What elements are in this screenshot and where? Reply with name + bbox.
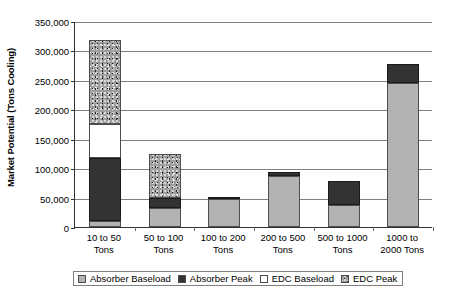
bar-stack[interactable] <box>89 21 121 227</box>
bar-segment[interactable] <box>268 176 300 227</box>
x-axis-tick-label: 1000 to2000 Tons <box>372 232 432 255</box>
gridline <box>75 199 432 200</box>
stacked-bar-chart: Market Potential (Tons Cooling) 350,0003… <box>0 0 452 300</box>
y-axis-tick-mark <box>71 110 75 111</box>
y-axis-tick-label: 150,000 <box>35 134 69 145</box>
x-axis-tick-label: 50 to 100Tons <box>134 232 194 255</box>
legend-label: Absorber Peak <box>190 274 253 284</box>
y-axis-tick-label: 350,000 <box>35 17 69 28</box>
bar-segment[interactable] <box>149 208 181 227</box>
y-axis-tick-label: 200,000 <box>35 105 69 116</box>
bar-segment[interactable] <box>208 199 240 227</box>
gridline <box>75 110 432 111</box>
y-axis-tick-mark <box>71 81 75 82</box>
bar-segment[interactable] <box>89 158 121 221</box>
x-axis-tick-label: 100 to 200Tons <box>193 232 253 255</box>
x-axis-tick-mark <box>194 227 195 231</box>
legend-item[interactable]: Absorber Peak <box>178 274 253 284</box>
bar-stack[interactable] <box>149 21 181 227</box>
y-axis-tick-label: 100,000 <box>35 164 69 175</box>
y-axis-tick-label: 50,000 <box>40 193 69 204</box>
legend-item[interactable]: Absorber Baseload <box>78 274 171 284</box>
bar-segment[interactable] <box>89 124 121 158</box>
gridline <box>75 140 432 141</box>
bar-stack[interactable] <box>328 21 360 227</box>
legend-label: EDC Peak <box>353 274 397 284</box>
bar-segment[interactable] <box>328 205 360 227</box>
bar-segment[interactable] <box>208 197 240 199</box>
bar-segment[interactable] <box>387 83 419 227</box>
y-axis-tick-mark <box>71 140 75 141</box>
x-axis-tick-mark <box>433 227 434 231</box>
bar-segment[interactable] <box>149 198 181 207</box>
x-axis-tick-label: 10 to 50Tons <box>74 232 134 255</box>
bar-segment[interactable] <box>387 64 419 83</box>
legend-swatch-icon <box>78 275 86 283</box>
legend-item[interactable]: EDC Baseload <box>260 274 334 284</box>
x-axis-tick-labels: 10 to 50Tons50 to 100Tons100 to 200Tons2… <box>74 232 432 260</box>
x-axis-tick-mark <box>373 227 374 231</box>
x-axis-tick-mark <box>135 227 136 231</box>
legend-label: EDC Baseload <box>272 274 334 284</box>
y-axis-tick-mark <box>71 22 75 23</box>
gridline <box>75 169 432 170</box>
gridline <box>75 22 432 23</box>
x-axis-tick-label: 200 to 500Tons <box>253 232 313 255</box>
bar-segment[interactable] <box>89 40 121 124</box>
bar-segment[interactable] <box>149 154 181 198</box>
y-axis-title-text: Market Potential (Tons Cooling) <box>6 48 17 187</box>
bar-segment[interactable] <box>268 172 300 176</box>
bar-segment[interactable] <box>328 181 360 205</box>
y-axis-tick-labels: 350,000300,000250,000200,000150,000100,0… <box>22 16 74 234</box>
legend-item[interactable]: EDC Peak <box>341 274 397 284</box>
y-axis-tick-mark <box>71 169 75 170</box>
x-axis-tick-label: 500 to 1000Tons <box>313 232 373 255</box>
legend-label: Absorber Baseload <box>90 274 171 284</box>
bar-stack[interactable] <box>208 21 240 227</box>
bar-segment[interactable] <box>89 221 121 227</box>
bar-stack[interactable] <box>387 21 419 227</box>
y-axis-tick-label: 250,000 <box>35 75 69 86</box>
chart-legend: Absorber BaseloadAbsorber PeakEDC Baselo… <box>73 271 403 286</box>
x-axis-tick-mark <box>314 227 315 231</box>
y-axis-tick-mark <box>71 199 75 200</box>
y-axis-title: Market Potential (Tons Cooling) <box>0 0 22 235</box>
y-axis-tick-label: 300,000 <box>35 46 69 57</box>
gridline <box>75 81 432 82</box>
plot-area <box>74 22 432 228</box>
y-axis-tick-label: 0 <box>64 223 69 234</box>
legend-swatch-icon <box>260 275 268 283</box>
legend-swatch-icon <box>178 275 186 283</box>
bar-stack[interactable] <box>268 21 300 227</box>
legend-swatch-icon <box>341 275 349 283</box>
x-axis-tick-mark <box>254 227 255 231</box>
y-axis-tick-mark <box>71 228 75 229</box>
gridline <box>75 51 432 52</box>
y-axis-tick-mark <box>71 51 75 52</box>
